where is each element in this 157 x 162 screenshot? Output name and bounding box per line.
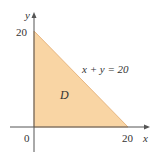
y-tick-label: 20	[16, 26, 28, 38]
y-axis-label: y	[24, 9, 30, 21]
region-diagram: y 20 0 20 x D x + y = 20	[0, 0, 157, 162]
x-axis-arrow-icon	[144, 125, 150, 130]
origin-label: 0	[24, 132, 30, 144]
region-label: D	[59, 88, 69, 102]
x-tick-label: 20	[122, 132, 134, 144]
y-axis-arrow-icon	[32, 12, 37, 18]
region-d	[34, 31, 128, 127]
boundary-equation-label: x + y = 20	[81, 63, 129, 75]
x-axis-label: x	[142, 132, 148, 144]
